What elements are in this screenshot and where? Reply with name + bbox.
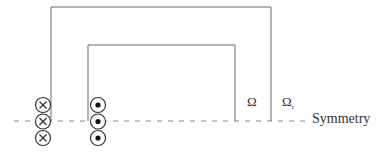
- cross-conductor-icon: [36, 114, 51, 129]
- outer-boundary: [51, 7, 271, 121]
- diagram-canvas: [0, 0, 376, 156]
- omega-r-subscript: r: [292, 103, 294, 111]
- conductors-out-of-page: [91, 98, 106, 146]
- omega-label: Ω: [247, 94, 257, 109]
- inner-domain-label: Ω: [247, 95, 257, 108]
- dot-conductor-icon: [91, 98, 106, 113]
- outer-domain-label: Ωr: [282, 95, 294, 111]
- cross-conductor-icon: [36, 131, 51, 146]
- inner-boundary: [88, 45, 235, 121]
- cross-conductor-icon: [36, 98, 51, 113]
- omega-r-base: Ω: [282, 94, 292, 109]
- dot-conductor-icon: [91, 114, 106, 129]
- symmetry-label: Symmetry: [312, 112, 370, 126]
- dot-conductor-icon: [91, 131, 106, 146]
- conductors-into-page: [36, 98, 51, 146]
